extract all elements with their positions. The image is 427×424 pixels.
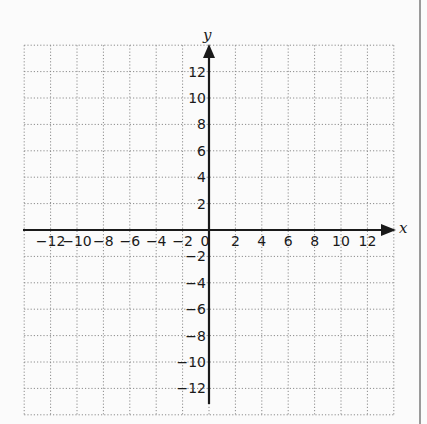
y-tick-label: 6 (197, 143, 206, 159)
x-tick-label: 4 (257, 233, 266, 249)
y-tick-label: 10 (188, 90, 206, 106)
y-tick-label: 12 (188, 64, 206, 80)
y-tick-label: −6 (185, 301, 206, 317)
y-tick-label: 8 (197, 116, 206, 132)
x-tick-label: −6 (119, 233, 140, 249)
y-axis-label: y (202, 26, 212, 44)
x-tick-label: −8 (93, 233, 114, 249)
origin-label: 0 (201, 233, 210, 249)
x-tick-label: 10 (332, 233, 350, 249)
x-tick-label: −12 (36, 233, 66, 249)
coordinate-plane: x y −12−10−8−6−4−202468101212108642−2−4−… (0, 0, 427, 424)
x-tick-label: 8 (310, 233, 319, 249)
x-tick-label: −4 (146, 233, 167, 249)
y-tick-label: −12 (176, 380, 206, 396)
y-tick-label: −2 (185, 248, 206, 264)
x-axis-label: x (399, 219, 408, 237)
y-tick-label: −4 (185, 275, 206, 291)
y-tick-label: 4 (197, 169, 206, 185)
y-tick-label: −10 (176, 354, 206, 370)
x-tick-label: 12 (358, 233, 376, 249)
x-tick-label: −10 (62, 233, 92, 249)
x-tick-label: 2 (231, 233, 240, 249)
axes: x y (23, 26, 408, 404)
y-tick-label: 2 (197, 196, 206, 212)
x-tick-label: −2 (172, 233, 193, 249)
page-edge-divider (419, 0, 421, 424)
x-tick-label: 6 (284, 233, 293, 249)
y-tick-label: −8 (185, 328, 206, 344)
y-axis-arrow-icon (203, 44, 215, 58)
